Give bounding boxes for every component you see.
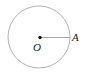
center-label-o: O [33, 42, 41, 53]
point-label-a: A [72, 32, 79, 43]
center-point-dot [38, 36, 41, 39]
geometry-figure-circle: O A [0, 0, 90, 74]
